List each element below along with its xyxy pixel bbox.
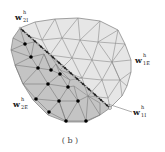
figure-caption: ( b )	[62, 136, 78, 145]
svg-text:2I: 2I	[23, 17, 28, 23]
svg-text:w: w	[12, 99, 21, 109]
svg-text:w: w	[14, 12, 23, 22]
interface-node	[37, 43, 39, 45]
interior-node	[57, 99, 61, 103]
interior-node	[23, 42, 27, 46]
interior-node	[84, 119, 88, 123]
interface-node	[85, 86, 87, 88]
svg-text:1E: 1E	[143, 60, 150, 66]
interface-node	[31, 38, 33, 40]
interior-node	[47, 110, 51, 114]
svg-text:1I: 1I	[141, 112, 146, 118]
svg-text:w: w	[134, 55, 143, 65]
svg-text:h: h	[141, 104, 145, 110]
interface-node	[88, 88, 90, 90]
svg-text:w: w	[132, 107, 141, 117]
interior-node	[58, 72, 62, 76]
interior-node	[34, 97, 38, 101]
interior-node	[49, 68, 53, 72]
interface-node	[22, 30, 24, 32]
svg-text:h: h	[21, 96, 25, 102]
interface-node	[40, 46, 42, 48]
interface-node	[34, 40, 36, 42]
interface-node	[28, 35, 30, 37]
svg-text:h: h	[23, 9, 27, 15]
svg-text:h: h	[143, 52, 147, 58]
interface-node	[91, 91, 93, 93]
label-w2I: w h 2I	[14, 9, 28, 23]
interior-node	[66, 85, 70, 89]
interior-node	[29, 55, 33, 59]
mesh-diagram: w h 2I w h 1E w h 2E w h 1I ( b )	[0, 0, 165, 152]
interface-node	[58, 62, 60, 64]
interface-node	[55, 59, 57, 61]
interface-node	[61, 64, 63, 66]
interface-node	[64, 67, 66, 69]
interior-node	[46, 82, 50, 86]
interior-node	[76, 99, 80, 103]
interface-node	[76, 78, 78, 80]
interface-node	[100, 99, 102, 101]
label-w1I: w h 1I	[132, 104, 146, 118]
interface-node	[19, 27, 21, 29]
interface-node	[25, 32, 27, 34]
interface-node	[106, 104, 108, 106]
interface-node	[82, 83, 84, 85]
interface-node	[49, 54, 51, 56]
interface-node	[94, 94, 96, 96]
interface-node	[97, 96, 99, 98]
interface-node	[52, 56, 54, 58]
interface-node	[103, 102, 105, 104]
interface-node	[46, 51, 48, 53]
label-w1E: w h 1E	[134, 52, 150, 66]
interface-node	[79, 80, 81, 82]
interface-node	[73, 75, 75, 77]
interface-node	[70, 72, 72, 74]
interface-node	[43, 48, 45, 50]
interior-node	[36, 66, 40, 70]
interface-node	[67, 70, 69, 72]
interior-node	[64, 119, 68, 123]
label-w2E: w h 2E	[12, 96, 28, 110]
endpoint-marker	[109, 107, 112, 110]
svg-text:2E: 2E	[21, 104, 28, 110]
